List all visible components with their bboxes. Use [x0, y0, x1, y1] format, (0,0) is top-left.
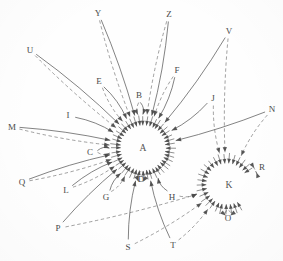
hub-fringe-arrowhead	[165, 154, 170, 158]
node-label-s: S	[125, 243, 130, 252]
graph-canvas	[0, 0, 283, 261]
edge-z-to-a-dashed	[147, 21, 167, 114]
hub-fringe-arrowhead	[116, 150, 121, 154]
arrowhead-z-to-a	[146, 109, 150, 115]
node-label-g: G	[103, 193, 110, 202]
hub-fringe-arrowhead	[116, 139, 121, 143]
edge-i-to-a-solid	[75, 117, 113, 132]
arrowhead-s-to-a	[132, 181, 136, 187]
arrowhead-e-to-a	[123, 113, 127, 119]
arrowhead-q-to-a	[104, 154, 110, 158]
hub-fringe-arrowhead	[127, 124, 131, 129]
node-label-e: E	[96, 77, 102, 86]
hub-fringe-arrowhead	[234, 203, 238, 208]
hub-fringe-arrowhead	[138, 121, 142, 126]
hub-fringe-arrowhead	[117, 154, 122, 158]
arrowhead-e-to-a	[117, 116, 122, 121]
hub-fringe-arrowhead	[203, 192, 208, 196]
hub-fringe-arrowhead	[229, 204, 233, 209]
node-label-b: B	[136, 91, 142, 100]
edge-m-to-a-solid	[20, 127, 111, 140]
hub-fringe-arrowhead	[202, 179, 207, 183]
edge-z-to-a-solid	[152, 22, 169, 116]
arrowhead-l-to-a	[107, 162, 113, 166]
arrowhead-i-to-a	[108, 128, 114, 133]
hub-fringe-arrowhead	[203, 174, 208, 178]
hub-fringe-arrowhead	[116, 146, 121, 150]
hub-fringe-arrowhead	[134, 122, 138, 127]
arrowhead-t-to-a	[150, 181, 154, 187]
arrowhead-r-to-k	[250, 162, 255, 168]
edge-e-to-a-solid	[104, 87, 127, 119]
hub-fringe-arrowhead	[145, 121, 149, 126]
hub-fringe-arrowhead	[145, 170, 149, 175]
arrowhead-l-to-a	[109, 166, 115, 171]
edge-y-to-a-dashed	[100, 20, 131, 117]
hub-fringe-arrowhead	[149, 170, 153, 175]
arrowhead-v-to-k	[223, 147, 227, 152]
hub-fringe-arrowhead	[215, 203, 219, 208]
node-label-t: T	[170, 241, 176, 250]
hub-fringe-arrowhead	[205, 196, 210, 200]
node-label-f: F	[174, 66, 179, 75]
hub-fringe-arrowhead	[117, 135, 122, 139]
node-label-h: H	[169, 193, 176, 202]
hub-fringe-arrowhead	[165, 139, 170, 143]
node-label-n: N	[269, 105, 276, 114]
edge-n-to-k-dashed	[241, 115, 267, 156]
hub-fringe-arrowhead	[223, 159, 227, 164]
hub-fringe-arrowhead	[224, 204, 228, 209]
arrowhead-s-to-k	[196, 203, 202, 208]
node-label-r: R	[259, 163, 265, 172]
hub-fringe-arrowhead	[239, 163, 243, 168]
edge-q-to-a-dashed	[29, 159, 111, 180]
edge-e-to-a-dashed	[102, 88, 122, 122]
hub-fringe-arrowhead	[202, 183, 207, 187]
edge-t-to-a-solid	[151, 181, 170, 238]
edge-l-to-a-solid	[72, 162, 112, 186]
hub-fringe-arrowhead	[202, 188, 207, 192]
arrowhead-p-to-k	[191, 194, 197, 198]
hubs-layer	[121, 126, 247, 204]
hub-fringe-arrowhead	[116, 143, 121, 147]
hub-fringe-arrowhead	[149, 121, 153, 126]
node-label-c: C	[87, 148, 93, 157]
arrowhead-m-to-a	[105, 137, 111, 141]
node-label-z: Z	[166, 10, 172, 19]
hub-label-a: A	[139, 144, 146, 154]
arrowhead-j-to-k	[216, 148, 220, 154]
edge-h-to-a-solid	[158, 178, 167, 191]
edge-t-to-k-dashed	[179, 209, 208, 240]
hub-fringe-arrowhead	[165, 150, 170, 154]
hub-fringe-arrowhead	[166, 146, 171, 150]
hub-label-k: K	[225, 181, 232, 191]
edge-p-to-k-dashed	[65, 194, 197, 227]
arrowhead-n-to-k	[241, 150, 245, 156]
node-label-y: Y	[95, 9, 102, 18]
node-label-q: Q	[19, 178, 26, 187]
node-label-m: M	[8, 123, 16, 132]
arrowhead-h-to-a	[157, 178, 161, 184]
arrowhead-f-to-a	[159, 113, 164, 119]
arrowhead-u-to-a	[111, 123, 117, 128]
node-label-o: O	[225, 214, 232, 223]
arrowhead-y-to-a	[126, 111, 130, 117]
graph-diagram: AKYZVUFEBJNIMCRDQLGHOPTS	[0, 0, 283, 261]
arrowhead-j-to-a	[172, 126, 178, 130]
hub-fringe-arrowhead	[133, 170, 137, 175]
node-label-l: L	[63, 186, 69, 195]
hub-fringe-arrowhead	[211, 201, 215, 206]
hub-fringe-arrowhead	[232, 159, 236, 164]
arrowhead-r-to-k	[256, 172, 260, 178]
arrowhead-t-to-k	[203, 209, 208, 215]
hub-fringe-arrowhead	[119, 132, 124, 136]
edge-y-to-a-solid	[101, 20, 135, 116]
hub-fringe-arrowhead	[165, 142, 170, 146]
arrowhead-f-to-a	[154, 111, 158, 117]
hub-fringe-arrowhead	[141, 121, 145, 126]
node-label-v: V	[226, 27, 233, 36]
edge-s-to-a-solid	[128, 181, 135, 240]
hub-fringe-arrowhead	[218, 159, 222, 164]
node-label-p: P	[55, 224, 60, 233]
edge-q-to-a-solid	[29, 155, 110, 179]
